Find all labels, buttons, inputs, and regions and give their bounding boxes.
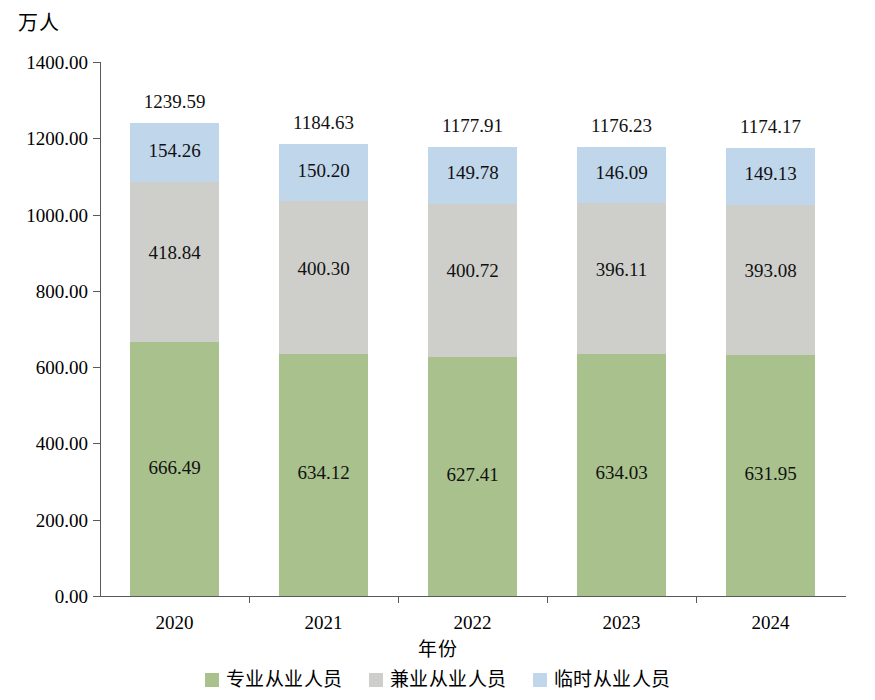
bar-segment-value-label: 400.72 bbox=[428, 261, 517, 280]
bar-total-label: 1176.23 bbox=[577, 116, 666, 135]
y-axis-tick-label: 600.00 bbox=[36, 358, 88, 377]
y-axis-tick-mark bbox=[93, 138, 100, 139]
bar-segment-value-label: 634.03 bbox=[577, 463, 666, 482]
y-axis-tick-label: 200.00 bbox=[36, 510, 88, 529]
legend-swatch-icon bbox=[533, 673, 547, 687]
bar-segment[interactable]: 154.26 bbox=[130, 123, 219, 182]
legend-item-label: 兼业从业人员 bbox=[390, 668, 507, 692]
bar-segment[interactable]: 149.78 bbox=[428, 147, 517, 204]
bar-segment[interactable]: 393.08 bbox=[726, 205, 815, 355]
bar-segment[interactable]: 418.84 bbox=[130, 182, 219, 342]
y-axis-tick-mark bbox=[93, 367, 100, 368]
bar-segment[interactable]: 634.12 bbox=[279, 354, 368, 596]
x-axis-category-label: 2024 bbox=[696, 612, 845, 634]
chart-legend: 专业从业人员兼业从业人员临时从业人员 bbox=[0, 668, 875, 692]
bar-group[interactable]: 627.41400.72149.781177.91 bbox=[428, 62, 517, 596]
legend-item[interactable]: 专业从业人员 bbox=[205, 668, 343, 692]
legend-item-label: 临时从业人员 bbox=[554, 668, 671, 692]
y-axis-tick-mark bbox=[93, 62, 100, 63]
y-axis-tick-label: 0.00 bbox=[55, 587, 88, 606]
bar-total-label: 1184.63 bbox=[279, 113, 368, 132]
plot-area: 0.00200.00400.00600.00800.001000.001200.… bbox=[100, 62, 845, 596]
x-axis-title: 年份 bbox=[0, 638, 875, 662]
x-axis-category-label: 2022 bbox=[398, 612, 547, 634]
legend-swatch-icon bbox=[369, 673, 383, 687]
bar-segment-value-label: 627.41 bbox=[428, 465, 517, 484]
x-axis-tick-mark bbox=[398, 596, 399, 603]
x-axis-category-label: 2023 bbox=[547, 612, 696, 634]
y-axis-tick-label: 1000.00 bbox=[26, 205, 88, 224]
bar-total-label: 1239.59 bbox=[130, 92, 219, 111]
bar-segment-value-label: 393.08 bbox=[726, 261, 815, 280]
bar-segment-value-label: 149.78 bbox=[428, 163, 517, 182]
bar-segment[interactable]: 666.49 bbox=[130, 342, 219, 596]
y-axis-tick-mark bbox=[93, 596, 100, 597]
y-axis-tick-label: 1400.00 bbox=[26, 53, 88, 72]
bar-segment[interactable]: 146.09 bbox=[577, 147, 666, 203]
bar-group[interactable]: 634.03396.11146.091176.23 bbox=[577, 62, 666, 596]
bar-segment-value-label: 150.20 bbox=[279, 161, 368, 180]
bar-segment-value-label: 418.84 bbox=[130, 243, 219, 262]
y-axis-tick-mark bbox=[93, 520, 100, 521]
bar-segment[interactable]: 150.20 bbox=[279, 144, 368, 201]
legend-item-label: 专业从业人员 bbox=[226, 668, 343, 692]
bar-segment[interactable]: 149.13 bbox=[726, 148, 815, 205]
bar-group[interactable]: 634.12400.30150.201184.63 bbox=[279, 62, 368, 596]
bar-segment-value-label: 631.95 bbox=[726, 464, 815, 483]
bar-segment-value-label: 634.12 bbox=[279, 463, 368, 482]
bar-segment[interactable]: 634.03 bbox=[577, 354, 666, 596]
x-axis-category-label: 2020 bbox=[100, 612, 249, 634]
bar-segment-value-label: 146.09 bbox=[577, 163, 666, 182]
stacked-bar-chart: 万人 0.00200.00400.00600.00800.001000.0012… bbox=[0, 0, 875, 700]
bar-group[interactable]: 666.49418.84154.261239.59 bbox=[130, 62, 219, 596]
bar-segment[interactable]: 400.72 bbox=[428, 204, 517, 357]
y-axis-tick-label: 800.00 bbox=[36, 281, 88, 300]
bar-segment[interactable]: 631.95 bbox=[726, 355, 815, 596]
y-axis-tick-mark bbox=[93, 215, 100, 216]
legend-item[interactable]: 兼业从业人员 bbox=[369, 668, 507, 692]
bar-total-label: 1174.17 bbox=[726, 117, 815, 136]
bar-segment-value-label: 154.26 bbox=[130, 141, 219, 160]
x-axis-category-label: 2021 bbox=[249, 612, 398, 634]
bar-segment-value-label: 149.13 bbox=[726, 164, 815, 183]
y-axis-tick-label: 1200.00 bbox=[26, 129, 88, 148]
y-axis-tick-label: 400.00 bbox=[36, 434, 88, 453]
legend-swatch-icon bbox=[205, 673, 219, 687]
bar-segment-value-label: 396.11 bbox=[577, 260, 666, 279]
x-axis-line bbox=[100, 596, 846, 597]
bar-segment[interactable]: 400.30 bbox=[279, 201, 368, 354]
x-axis-tick-mark bbox=[547, 596, 548, 603]
bar-segment[interactable]: 627.41 bbox=[428, 357, 517, 596]
x-axis-tick-mark bbox=[696, 596, 697, 603]
y-axis-unit-label: 万人 bbox=[18, 10, 60, 36]
y-axis-tick-mark bbox=[93, 291, 100, 292]
x-axis-tick-mark bbox=[249, 596, 250, 603]
legend-item[interactable]: 临时从业人员 bbox=[533, 668, 671, 692]
y-axis-tick-mark bbox=[93, 443, 100, 444]
bar-segment-value-label: 400.30 bbox=[279, 259, 368, 278]
bar-segment-value-label: 666.49 bbox=[130, 458, 219, 477]
bar-total-label: 1177.91 bbox=[428, 116, 517, 135]
bar-group[interactable]: 631.95393.08149.131174.17 bbox=[726, 62, 815, 596]
bar-segment[interactable]: 396.11 bbox=[577, 203, 666, 354]
